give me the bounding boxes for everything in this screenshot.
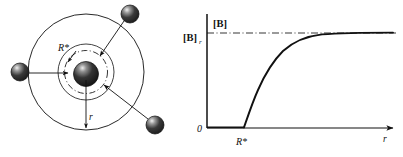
mobile-sphere-left [11,63,29,81]
label-radial-concentration-subscript: r [199,38,202,46]
label-origin-zero: 0 [197,123,202,134]
label-radial-concentration-main: [B] [183,32,197,43]
label-distance-r: r [89,112,93,122]
label-encounter-radius: R* [57,42,69,53]
label-xtick-rstar: R* [235,136,247,147]
label-bulk-concentration: [B] [213,18,227,29]
label-x-axis-r: r [383,134,387,144]
figure-root: R* r [B] [B] r 0 R* r [0,0,403,157]
mobile-sphere-top-right [121,5,139,23]
mobile-sphere-bottom-right [146,116,164,134]
